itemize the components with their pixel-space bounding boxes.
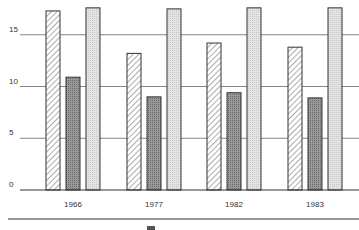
x-axis-category-labels: 1966197719821983 (64, 200, 324, 209)
bar-1983-series-1 (288, 47, 302, 190)
legend-swatch (147, 226, 155, 230)
bars (46, 8, 342, 190)
bar-1983-series-2 (308, 98, 322, 190)
bar-1977-series-3 (167, 9, 181, 190)
x-category-label: 1977 (145, 200, 163, 209)
grouped-bar-chart: 051015 1966197719821983 (0, 0, 359, 230)
bar-1982-series-1 (207, 43, 221, 190)
y-tick-label: 10 (9, 77, 18, 86)
bar-1966-series-3 (86, 8, 100, 190)
y-tick-label: 5 (9, 128, 14, 137)
y-tick-label: 15 (9, 25, 18, 34)
bar-1977-series-1 (127, 53, 141, 190)
bar-1982-series-2 (227, 93, 241, 190)
y-tick-label: 0 (9, 180, 14, 189)
x-category-label: 1983 (306, 200, 324, 209)
x-category-label: 1966 (64, 200, 82, 209)
bar-1983-series-3 (328, 8, 342, 190)
bar-1982-series-3 (247, 8, 261, 190)
y-axis-tick-labels: 051015 (9, 25, 18, 189)
bar-1977-series-2 (147, 97, 161, 190)
bar-1966-series-2 (66, 77, 80, 190)
x-category-label: 1982 (225, 200, 243, 209)
bar-1966-series-1 (46, 11, 60, 190)
